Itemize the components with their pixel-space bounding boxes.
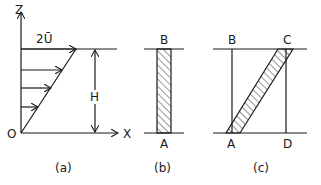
caption-b: (b) (154, 161, 171, 175)
sheared-hatched-column (226, 49, 293, 133)
diagram-canvas: Z X O 2Ū H (a) B A (b) B C A D (c) (0, 0, 321, 185)
origin-label: O (7, 127, 16, 141)
label-d: D (283, 137, 292, 151)
label-a: A (227, 137, 236, 151)
velocity-label: 2Ū (36, 32, 52, 46)
label-c: C (283, 33, 291, 47)
label-b: B (228, 33, 236, 47)
hatched-column (157, 49, 171, 133)
x-axis-label: X (123, 127, 131, 141)
panel-c: B C A D (c) (213, 33, 307, 175)
panel-a: Z X O 2Ū H (a) (7, 3, 131, 175)
z-axis-label: Z (15, 3, 23, 17)
velocity-profile-line (21, 49, 76, 133)
label-b: B (160, 33, 168, 47)
height-label: H (90, 90, 99, 104)
caption-a: (a) (55, 161, 72, 175)
caption-c: (c) (253, 161, 269, 175)
panel-b: B A (b) (144, 33, 184, 175)
label-a: A (160, 137, 169, 151)
